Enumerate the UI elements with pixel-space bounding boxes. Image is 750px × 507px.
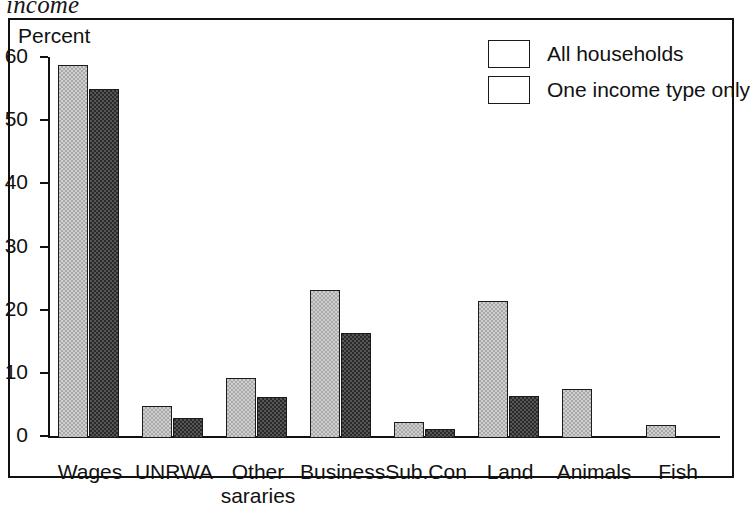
y-tick-label: 40 <box>5 170 28 194</box>
bar-unrwa-all[interactable] <box>142 406 172 438</box>
x-label-line: Animals <box>552 460 636 484</box>
bar-other-sararies-all[interactable] <box>226 378 256 438</box>
chart-legend: All householdsOne income type only <box>488 38 750 110</box>
x-label-sub-con: Sub.Con <box>384 460 468 484</box>
y-tick: 20 <box>40 309 48 311</box>
bar-group <box>310 57 394 438</box>
figure-caption: income <box>6 0 79 19</box>
x-label-animals: Animals <box>552 460 636 484</box>
legend-item-all-households[interactable]: All households <box>488 38 750 70</box>
y-tick: 0 <box>40 435 48 437</box>
x-label-line: Other <box>216 460 300 484</box>
bar-series-container <box>50 57 726 438</box>
legend-item-one-income-type-only[interactable]: One income type only <box>488 74 750 106</box>
y-tick-label: 50 <box>5 107 28 131</box>
bar-business-one[interactable] <box>341 333 371 438</box>
bar-sub-con-all[interactable] <box>394 422 424 438</box>
x-label-business: Business <box>300 460 384 484</box>
x-label-line: Business <box>300 460 384 484</box>
y-tick-label: 60 <box>5 44 28 68</box>
y-tick-label: 20 <box>5 296 28 320</box>
y-tick-label: 0 <box>16 423 28 447</box>
bar-group <box>142 57 226 438</box>
bar-wages-all[interactable] <box>58 65 88 438</box>
bar-unrwa-one[interactable] <box>173 418 203 438</box>
legend-label: All households <box>547 42 684 66</box>
legend-label: One income type only <box>547 78 750 102</box>
bar-land-all[interactable] <box>478 301 508 438</box>
y-axis-title: Percent <box>18 24 90 48</box>
bar-group <box>226 57 310 438</box>
bar-group <box>478 57 562 438</box>
x-label-land: Land <box>468 460 552 484</box>
bar-sub-con-one[interactable] <box>425 429 455 438</box>
y-tick: 10 <box>40 372 48 374</box>
bar-business-all[interactable] <box>310 290 340 438</box>
x-label-line: Fish <box>636 460 720 484</box>
x-label-line: Land <box>468 460 552 484</box>
bar-land-one[interactable] <box>509 396 539 438</box>
bar-wages-one[interactable] <box>89 89 119 438</box>
bar-group <box>58 57 142 438</box>
bar-other-sararies-one[interactable] <box>257 397 287 438</box>
bar-group <box>646 57 730 438</box>
bar-group <box>394 57 478 438</box>
x-label-line: Sub.Con <box>384 460 468 484</box>
y-tick-label: 30 <box>5 233 28 257</box>
y-tick: 30 <box>40 246 48 248</box>
x-label-line: UNRWA <box>132 460 216 484</box>
x-label-wages: Wages <box>48 460 132 484</box>
x-axis-category-labels: WagesUNRWAOthersarariesBusinessSub.ConLa… <box>50 460 726 500</box>
x-label-other-sararies: Othersararies <box>216 460 300 507</box>
x-label-unrwa: UNRWA <box>132 460 216 484</box>
y-tick: 50 <box>40 119 48 121</box>
chart-frame: Percent 0102030405060 WagesUNRWAOthersar… <box>8 18 734 478</box>
plot-area: Percent 0102030405060 <box>48 57 726 437</box>
y-tick: 40 <box>40 182 48 184</box>
x-label-line: sararies <box>216 484 300 507</box>
y-tick-label: 10 <box>5 359 28 383</box>
x-label-line: Wages <box>48 460 132 484</box>
y-tick: 60 <box>40 56 48 58</box>
legend-swatch <box>488 40 530 68</box>
bar-group <box>562 57 646 438</box>
legend-swatch <box>488 76 530 104</box>
x-label-fish: Fish <box>636 460 720 484</box>
bar-fish-all[interactable] <box>646 425 676 438</box>
bar-animals-all[interactable] <box>562 389 592 438</box>
